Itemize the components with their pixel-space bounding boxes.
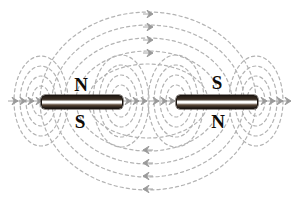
field-arrow-bottom (143, 146, 153, 154)
left-magnet-south-pole-label: S (69, 112, 91, 131)
magnetic-field-diagram: N S S N (0, 0, 294, 212)
field-arrow-bottom (143, 159, 153, 167)
right-magnet-south-pole-label: S (206, 73, 228, 92)
right-bar-magnet (176, 95, 258, 109)
field-arrow-bottom (143, 172, 153, 180)
left-magnet-north-pole-label: N (70, 75, 92, 94)
field-arrow-top (143, 10, 153, 18)
field-arrow-top (143, 36, 153, 44)
field-arrow-bottom (143, 185, 153, 193)
field-arrow-top (143, 23, 153, 31)
right-magnet-north-pole-label: N (207, 112, 229, 131)
field-arrow-top (143, 49, 153, 57)
field-arrow-inner-left (137, 97, 147, 105)
left-bar-magnet (41, 95, 123, 109)
